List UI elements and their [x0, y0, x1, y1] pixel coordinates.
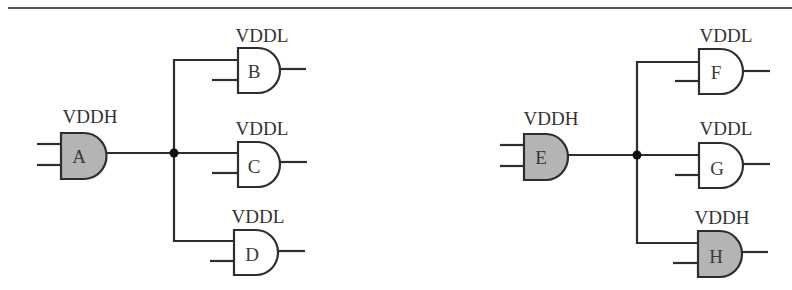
gate-a: VDDH A	[37, 106, 118, 179]
gate-h-label: H	[709, 246, 723, 267]
supply-label-e: VDDH	[524, 108, 579, 129]
supply-label-h: VDDH	[695, 207, 750, 228]
gate-b-label: B	[248, 61, 261, 82]
supply-label-b: VDDL	[236, 25, 289, 46]
supply-label-a: VDDH	[63, 106, 118, 127]
gate-c-label: C	[248, 156, 261, 177]
gate-e: VDDH E	[500, 108, 579, 180]
supply-label-d: VDDL	[232, 206, 285, 227]
gate-e-label: E	[535, 147, 547, 168]
net-bus-left	[174, 60, 238, 241]
gate-g-label: G	[710, 158, 724, 179]
circuit-left: VDDH A VDDL B VDDL C VDDL	[37, 25, 307, 275]
voltage-island-diagram: VDDH A VDDL B VDDL C VDDL	[0, 0, 792, 290]
supply-label-c: VDDL	[236, 118, 289, 139]
circuit-right: VDDH E VDDL F VDDL G VDDH	[500, 25, 770, 277]
gate-g: VDDL G	[675, 118, 770, 188]
gate-f-label: F	[711, 62, 722, 83]
gate-f: VDDL F	[675, 25, 770, 94]
supply-label-g: VDDL	[700, 118, 753, 139]
supply-label-f: VDDL	[700, 25, 753, 46]
junction-dot-right	[633, 151, 642, 160]
junction-dot-left	[170, 149, 179, 158]
gate-a-label: A	[72, 146, 86, 167]
gate-d-label: D	[245, 244, 259, 265]
net-bus-right	[637, 62, 699, 243]
